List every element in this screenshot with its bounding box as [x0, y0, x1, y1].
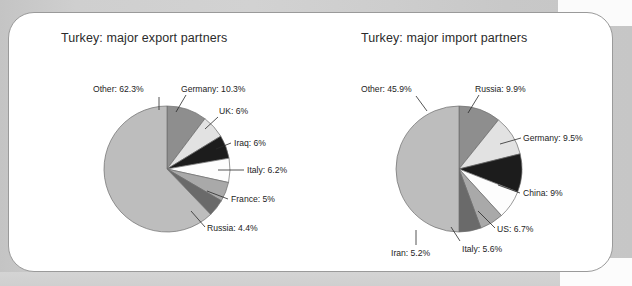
pie-label-russia-export: Russia: 4.4% [207, 223, 258, 233]
pie-label-iraq-export: Iraq: 6% [234, 138, 266, 148]
chart-panel-export: Turkey: major export partners Other: 62.… [9, 13, 311, 271]
pie-chart-import: Other: 45.9% Russia: 9.9% Germany: 9.5% … [299, 13, 613, 272]
pie-slice-other-import [396, 106, 459, 232]
pie-label-germany-export: Germany: 10.3% [181, 84, 246, 94]
pie-slices-export [104, 106, 230, 232]
pie-label-france-export: France: 5% [231, 194, 275, 204]
leader-line-other-import [416, 96, 427, 111]
pie-label-us-import: US: 6.7% [497, 224, 534, 234]
page-background-bottom-band [0, 272, 560, 286]
pie-label-iran-import: Iran: 5.2% [391, 248, 431, 258]
pie-label-russia-import: Russia: 9.9% [475, 84, 526, 94]
pie-label-germany-import: Germany: 9.5% [523, 133, 583, 143]
pie-label-other-import: Other: 45.9% [361, 84, 412, 94]
pie-chart-export: Other: 62.3% Germany: 10.3% UK: 6% Iraq:… [9, 13, 311, 272]
pie-slices-import [396, 106, 522, 232]
pie-label-italy-export: Italy: 6.2% [247, 165, 287, 175]
pie-label-uk-export: UK: 6% [219, 106, 248, 116]
pie-label-china-import: China: 9% [523, 188, 563, 198]
pie-label-italy-import: Italy: 5.6% [462, 244, 502, 254]
pie-label-other-export: Other: 62.3% [93, 84, 144, 94]
chart-panel-import: Turkey: major import partners Other: 45.… [299, 13, 613, 271]
figure-card: Turkey: major export partners Other: 62.… [8, 12, 613, 272]
